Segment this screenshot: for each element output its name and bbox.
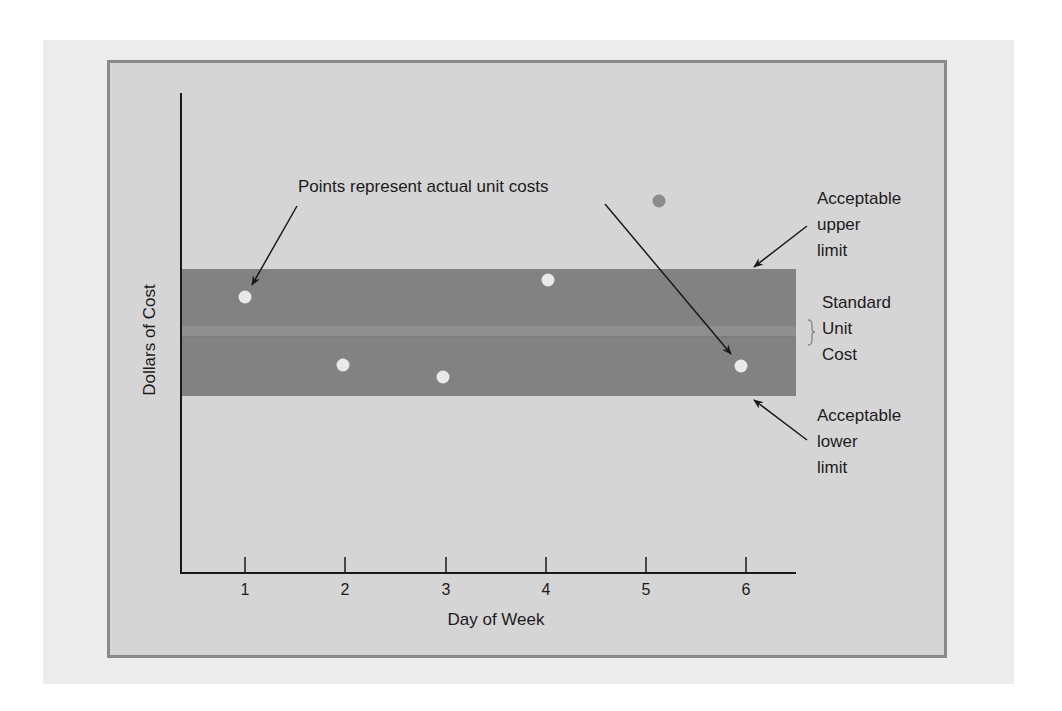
x-tick-label-4: 4 [542, 581, 551, 599]
x-ticks [245, 557, 746, 573]
y-axis-title: Dollars of Cost [140, 284, 160, 395]
x-tick-label-3: 3 [442, 581, 451, 599]
lower-limit-label: Acceptable lower limit [817, 403, 901, 481]
data-point-day-1 [239, 291, 252, 304]
points-annotation: Points represent actual unit costs [298, 174, 548, 200]
lower-label-line-1: Acceptable [817, 403, 901, 429]
standard-label-line-3: Cost [822, 342, 891, 368]
data-point-day-2 [337, 359, 350, 372]
arrow-lower-limit [754, 400, 807, 440]
upper-label-line-2: upper [817, 212, 901, 238]
data-point-day-6 [735, 360, 748, 373]
x-tick-label-5: 5 [642, 581, 651, 599]
standard-brace-icon [808, 320, 815, 345]
upper-limit-label: Acceptable upper limit [817, 186, 901, 264]
data-point-day-3 [437, 371, 450, 384]
x-tick-label-2: 2 [341, 581, 350, 599]
arrow-upper-limit [754, 226, 807, 267]
lower-label-line-2: lower [817, 429, 901, 455]
lower-label-line-3: limit [817, 455, 901, 481]
standard-cost-stripe [182, 326, 796, 336]
upper-label-line-1: Acceptable [817, 186, 901, 212]
data-point-day-4 [542, 274, 555, 287]
data-point-day-5-out-of-range [653, 195, 666, 208]
x-tick-label-6: 6 [742, 581, 751, 599]
upper-label-line-3: limit [817, 238, 901, 264]
standard-label-line-1: Standard [822, 290, 891, 316]
x-axis-title: Day of Week [447, 610, 544, 630]
standard-unit-cost-label: Standard Unit Cost [822, 290, 891, 368]
x-tick-label-1: 1 [241, 581, 250, 599]
standard-label-line-2: Unit [822, 316, 891, 342]
